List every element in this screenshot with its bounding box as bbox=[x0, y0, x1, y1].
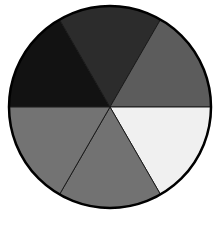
pie-chart-canvas bbox=[0, 0, 214, 225]
pie-chart bbox=[0, 0, 214, 225]
